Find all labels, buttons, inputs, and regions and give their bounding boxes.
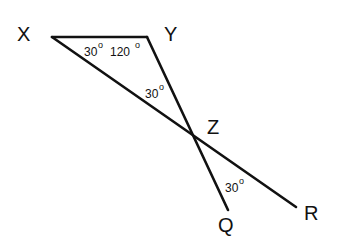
angle-value-z-qr: 30 — [225, 181, 239, 195]
point-label-r: R — [304, 202, 318, 224]
angle-label-y: 120 o — [110, 40, 140, 59]
degree-symbol: o — [135, 40, 140, 50]
angle-value-y: 120 — [110, 45, 130, 59]
degree-symbol: o — [98, 40, 103, 50]
point-label-z: Z — [207, 116, 219, 138]
angle-label-x: 30 o — [84, 40, 103, 59]
point-label-q: Q — [218, 214, 234, 236]
angle-label-z-triangle: 30 o — [145, 82, 164, 101]
geometry-diagram: X Y Z Q R 30 o 120 o 30 o 30 o — [0, 0, 338, 249]
angle-value-z-triangle: 30 — [145, 87, 159, 101]
angle-value-x: 30 — [84, 45, 98, 59]
degree-symbol: o — [239, 176, 244, 186]
segment-xr — [52, 37, 296, 207]
degree-symbol: o — [159, 82, 164, 92]
point-label-y: Y — [164, 23, 177, 45]
point-label-x: X — [17, 23, 30, 45]
angle-label-z-qr: 30 o — [225, 176, 244, 195]
